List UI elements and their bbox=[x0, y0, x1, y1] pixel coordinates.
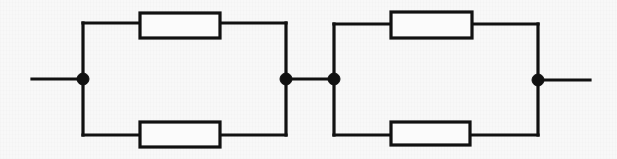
circuit-schematic-canvas bbox=[0, 0, 617, 159]
node-mid-right-dot bbox=[328, 73, 340, 85]
resistor-bottom-right bbox=[391, 122, 470, 145]
resistor-bottom-left bbox=[140, 122, 220, 147]
circuit-diagram-figure bbox=[0, 0, 617, 159]
resistor-top-left bbox=[140, 13, 220, 38]
node-left-dot bbox=[77, 73, 89, 85]
node-right-dot bbox=[532, 74, 544, 86]
resistor-top-right bbox=[391, 12, 472, 38]
node-mid-left-dot bbox=[280, 73, 292, 85]
